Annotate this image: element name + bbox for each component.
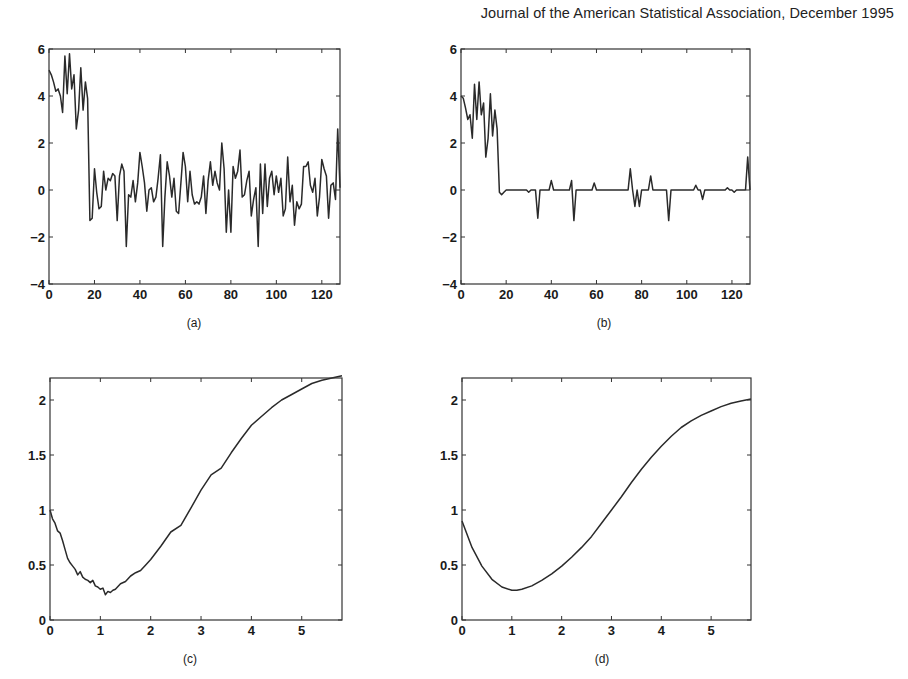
x-tick-label: 0 — [458, 623, 465, 638]
x-tick-label: 4 — [658, 623, 666, 638]
chart-d-svg: 01234500.511.52 (d) — [0, 0, 908, 679]
y-tick-label: 0 — [451, 613, 458, 628]
y-tick-label: 1.5 — [440, 448, 458, 463]
caption-d: (d) — [595, 652, 610, 666]
x-tick-label: 5 — [708, 623, 715, 638]
data-line — [462, 399, 751, 590]
y-tick-label: 1 — [451, 503, 458, 518]
y-tick-label: 0.5 — [440, 558, 458, 573]
axes-frame — [462, 378, 751, 620]
y-tick-label: 2 — [451, 393, 458, 408]
x-tick-label: 1 — [508, 623, 515, 638]
plot-d: 01234500.511.52 — [440, 378, 751, 638]
x-tick-label: 3 — [608, 623, 615, 638]
chart-panel-d: 01234500.511.52 (d) — [0, 0, 908, 679]
x-tick-label: 2 — [558, 623, 565, 638]
